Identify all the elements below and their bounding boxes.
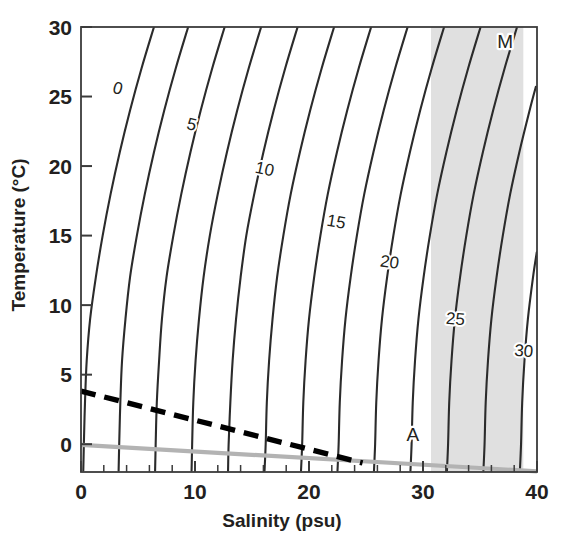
ts-density-chart: 005510101515202025253030 MMAA 0102030400… — [0, 0, 564, 541]
density-contour-2 — [155, 27, 225, 471]
contour-label-20: 20 — [379, 251, 401, 273]
contour-label-30: 30 — [514, 341, 534, 361]
y-tick-label-10: 10 — [49, 294, 72, 317]
y-tick-label-15: 15 — [49, 224, 73, 247]
label-A: A — [406, 424, 419, 445]
y-axis-title: Temperature (°C) — [8, 159, 29, 312]
x-axis-title: Salinity (psu) — [222, 510, 341, 531]
contour-label-25: 25 — [445, 309, 465, 329]
density-contour-7 — [338, 27, 408, 471]
y-tick-label-20: 20 — [49, 155, 72, 178]
y-tick-label-30: 30 — [49, 16, 72, 39]
density-contour-6 — [301, 27, 371, 471]
y-tick-label-0: 0 — [60, 433, 72, 456]
density-contour-4 — [228, 27, 298, 471]
shaded-salinity-band — [431, 27, 523, 472]
salinity-band-rect — [431, 27, 523, 472]
density-contour-5 — [265, 27, 335, 471]
contour-label-0: 0 — [111, 78, 125, 99]
contour-label-15: 15 — [325, 211, 347, 233]
label-M: M — [497, 31, 513, 52]
contour-label-5: 5 — [185, 114, 199, 135]
density-contour-3 — [192, 27, 262, 471]
x-tick-label-10: 10 — [183, 480, 206, 503]
y-tick-label-25: 25 — [49, 85, 73, 108]
x-tick-label-0: 0 — [75, 480, 87, 503]
y-tick-label-5: 5 — [60, 363, 72, 386]
contour-label-10: 10 — [253, 158, 276, 181]
x-tick-label-30: 30 — [411, 480, 434, 503]
x-tick-label-40: 40 — [525, 480, 548, 503]
figure-container: 005510101515202025253030 MMAA 0102030400… — [0, 0, 564, 541]
x-tick-label-20: 20 — [297, 480, 320, 503]
